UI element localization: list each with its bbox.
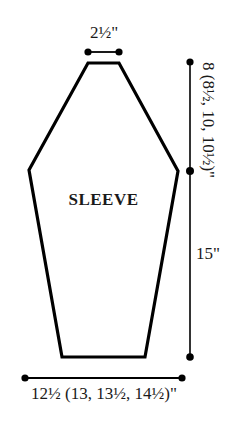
top-dimension-dot-left bbox=[84, 48, 91, 55]
bottom-dimension-dot-right bbox=[178, 374, 185, 381]
sleeve-outline-shape bbox=[29, 63, 178, 357]
sleeve-schematic-diagram: 2½" 8 (8½, 10, 10½)" 15" SLEEVE 12½ (13,… bbox=[0, 0, 232, 433]
bottom-width-dimension-label: 12½ (13, 13½, 14½)" bbox=[0, 385, 208, 402]
upper-height-dimension-label: 8 (8½, 10, 10½)" bbox=[193, 62, 223, 171]
top-dimension-line bbox=[84, 48, 122, 55]
top-dimension-dot-right bbox=[115, 48, 122, 55]
sleeve-piece-name-label: SLEEVE bbox=[29, 191, 178, 208]
bottom-dimension-line bbox=[21, 374, 185, 381]
lower-height-dimension-label: 15" bbox=[196, 245, 220, 262]
top-width-dimension-label: 2½" bbox=[0, 24, 208, 41]
right-dimension-dot-bottom bbox=[186, 353, 194, 361]
bottom-dimension-dot-left bbox=[21, 374, 28, 381]
